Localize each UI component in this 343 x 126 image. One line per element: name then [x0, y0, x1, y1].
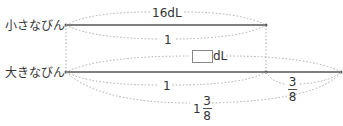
large-base-label: 1: [163, 80, 171, 92]
total-whole: 1: [193, 102, 201, 116]
extra-denominator: 8: [289, 91, 297, 103]
large-bottle-label: 大きなびん: [5, 67, 65, 79]
small-total-label: 16dL: [152, 7, 182, 19]
small-ratio-label: 1: [164, 34, 172, 46]
total-denominator: 8: [203, 110, 211, 122]
answer-box[interactable]: [192, 50, 213, 63]
unknown-unit-label: dL: [213, 50, 227, 62]
extra-fraction: 3 8: [288, 76, 297, 103]
total-numerator: 3: [203, 95, 211, 107]
extra-numerator: 3: [289, 76, 297, 88]
large-total-mixed-number: 1 3 8: [193, 95, 212, 122]
small-bottle-label: 小さなびん: [5, 20, 65, 32]
